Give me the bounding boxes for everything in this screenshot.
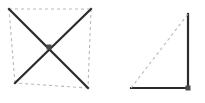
quadrilateral-with-diagonals-diagonal-b-d xyxy=(15,9,91,83)
right-triangle-right-angle-vertex-point xyxy=(186,86,191,91)
geometry-diagram xyxy=(0,0,205,103)
quadrilateral-with-diagonals xyxy=(9,9,91,88)
quadrilateral-with-diagonals-edge-left xyxy=(9,9,15,83)
quadrilateral-with-diagonals-diagonal-intersection-point xyxy=(47,45,52,50)
figure-canvas xyxy=(0,0,205,103)
quadrilateral-with-diagonals-edge-bottom xyxy=(15,83,88,88)
quadrilateral-with-diagonals-edge-right xyxy=(88,9,91,88)
right-triangle-hypotenuse xyxy=(131,14,188,88)
right-triangle xyxy=(131,14,191,91)
